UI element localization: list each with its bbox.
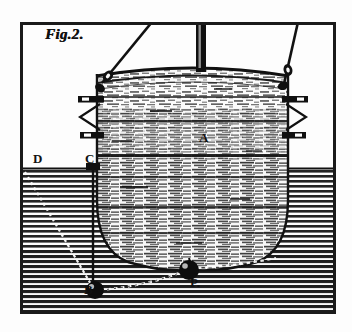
figure-caption: Fig.2. bbox=[45, 27, 83, 42]
label-a: A bbox=[199, 131, 208, 144]
engraving-plate: Fig.2. A B C D P. bbox=[0, 0, 352, 332]
label-d: D bbox=[33, 152, 42, 165]
diving-bell bbox=[90, 68, 295, 275]
figure-canvas bbox=[0, 0, 352, 332]
hoist-rope bbox=[196, 22, 206, 72]
label-c: C bbox=[85, 152, 94, 165]
label-p: P. bbox=[190, 276, 200, 289]
label-b: B bbox=[84, 283, 93, 296]
